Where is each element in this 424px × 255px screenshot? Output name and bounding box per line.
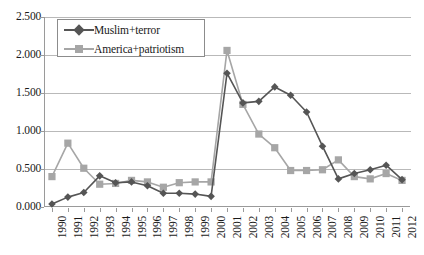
x-axis-tick-label: 1990 [57,216,69,238]
x-axis-tick-mark [243,208,244,212]
data-point-marker [255,130,262,137]
data-point-marker [319,142,327,150]
x-axis-tick-label: 2011 [391,216,403,238]
legend-swatch-diamond-icon [64,23,94,37]
x-axis-tick-label: 1997 [168,216,180,238]
diamond-marker-icon [73,24,84,35]
x-axis-tick-mark [147,208,148,212]
x-axis-tick-label: 1991 [73,216,85,238]
data-point-marker [271,144,278,151]
legend-item-muslim-terror: Muslim+terror [58,20,206,39]
data-point-marker [367,175,374,182]
legend-swatch-square-icon [64,42,94,56]
data-point-marker [192,178,199,185]
legend: Muslim+terror America+patriotism [57,19,205,57]
x-axis-tick-mark [402,208,403,212]
x-axis-tick-label: 2006 [312,216,324,238]
legend-label: Muslim+terror [94,24,160,36]
x-axis-tick-mark [386,208,387,212]
data-point-marker [175,190,183,198]
legend-label: America+patriotism [94,43,184,55]
x-axis-tick-label: 1992 [89,216,101,238]
x-axis-tick-label: 1993 [105,216,117,238]
x-axis-tick-mark [116,208,117,212]
data-point-marker [48,173,55,180]
x-axis-tick-label: 2012 [407,216,419,238]
data-point-marker [319,166,326,173]
x-axis-tick-mark [291,208,292,212]
data-point-marker [191,190,199,198]
data-point-marker [335,156,342,163]
x-axis-tick-mark [52,208,53,212]
x-axis-tick-mark [132,208,133,212]
legend-item-america-patriotism: America+patriotism [58,39,206,58]
x-axis-tick-label: 2010 [375,216,387,238]
data-point-marker [176,179,183,186]
data-point-marker [223,47,230,54]
data-point-marker [64,140,71,147]
data-point-marker [207,193,215,201]
data-point-marker [96,181,103,188]
x-axis-tick-label: 2009 [359,216,371,238]
x-axis-tick-label: 2003 [264,216,276,238]
x-axis-tick-label: 2008 [343,216,355,238]
x-axis-tick-label: 2005 [296,216,308,238]
x-axis-tick-mark [84,208,85,212]
x-axis-tick-mark [370,208,371,212]
x-axis-tick-mark [211,208,212,212]
x-axis-tick-mark [322,208,323,212]
data-point-marker [80,165,87,172]
x-axis-tick-label: 2001 [232,216,244,238]
x-axis-tick-label: 2004 [280,216,292,238]
x-axis-tick-label: 1994 [121,216,133,238]
x-axis-tick-label: 1999 [200,216,212,238]
x-axis-tick-label: 1998 [184,216,196,238]
x-axis-tick-mark [275,208,276,212]
x-axis-tick-mark [179,208,180,212]
data-point-marker [366,166,374,174]
x-axis-tick-mark [338,208,339,212]
x-axis-tick-label: 2007 [327,216,339,238]
x-axis-tick-mark [259,208,260,212]
square-marker-icon [75,45,83,53]
data-point-marker [64,193,72,201]
x-axis-tick-mark [354,208,355,212]
x-axis-tick-mark [307,208,308,212]
data-point-marker [335,175,343,183]
x-axis-tick-label: 2002 [248,216,260,238]
x-axis-tick-label: 2000 [216,216,228,238]
x-axis: 1990199119921993199419951996199719981999… [44,208,410,255]
x-axis-tick-mark [163,208,164,212]
x-axis-tick-label: 1995 [137,216,149,238]
x-axis-tick-mark [195,208,196,212]
data-point-marker [287,167,294,174]
data-point-marker [383,170,390,177]
line-chart: 0.0000.5001.0001.5002.0002.500 199019911… [0,0,424,255]
x-axis-tick-mark [227,208,228,212]
x-axis-tick-label: 1996 [152,216,164,238]
data-point-marker [303,167,310,174]
x-axis-tick-mark [100,208,101,212]
data-point-marker [48,200,56,208]
x-axis-tick-mark [68,208,69,212]
series-square [48,47,405,191]
